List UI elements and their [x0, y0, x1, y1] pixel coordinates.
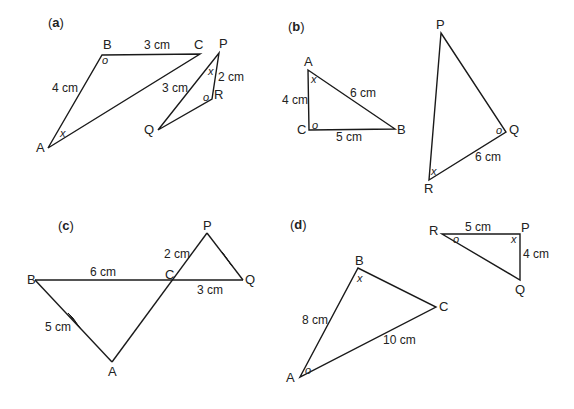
angle-b-mark: o: [102, 54, 108, 66]
angle-b-mark: x: [356, 272, 363, 284]
angle-a-mark: o: [305, 364, 311, 376]
length-bc: 3 cm: [144, 38, 170, 52]
point-q: Q: [144, 122, 154, 137]
angle-p-mark: x: [510, 233, 517, 245]
point-r: R: [424, 181, 433, 196]
length-rp: 5 cm: [465, 220, 491, 234]
point-q: Q: [245, 272, 255, 287]
part-label-a: (a): [48, 15, 64, 30]
point-c: C: [194, 37, 203, 52]
point-b: B: [27, 272, 36, 287]
point-q: Q: [515, 282, 525, 297]
angle-c-mark: o: [312, 119, 318, 131]
point-p: P: [521, 220, 530, 235]
point-c: C: [297, 122, 306, 137]
point-p: P: [436, 17, 445, 32]
length-cq: 3 cm: [197, 283, 223, 297]
line-ap: [112, 233, 207, 362]
point-b: B: [397, 122, 406, 137]
length-ac: 4 cm: [282, 93, 308, 107]
length-qr: 6 cm: [475, 150, 501, 164]
figure-d: (d) B C A R P Q 8 cm 10 cm 5 cm 4 cm x o…: [286, 217, 549, 385]
point-a: A: [108, 364, 117, 379]
length-cb: 5 cm: [336, 130, 362, 144]
angle-r-mark: o: [203, 91, 209, 103]
similar-triangles-diagram: (a) B C A P R Q 4 cm 3 cm 3 cm 2 cm o x …: [0, 0, 574, 409]
point-c: C: [439, 299, 448, 314]
triangle-abc-b: [308, 70, 395, 130]
point-p: P: [203, 218, 212, 233]
part-label-b: (b): [288, 19, 305, 34]
angle-q-mark: o: [496, 124, 502, 136]
angle-r-mark: o: [453, 233, 459, 245]
length-bc: 6 cm: [90, 265, 116, 279]
angle-p-mark: x: [207, 65, 214, 77]
point-p: P: [219, 36, 228, 51]
angle-r-mark: x: [430, 165, 437, 177]
length-pq: 3 cm: [162, 81, 188, 95]
point-b: B: [355, 253, 364, 268]
figure-b: (b) A C B P Q R 4 cm 6 cm 5 cm 6 cm x o …: [282, 17, 519, 196]
angle-a-mark: x: [310, 73, 317, 85]
triangle-abc-a: [48, 54, 200, 148]
length-ab: 8 cm: [302, 313, 328, 327]
parallel-arrow-pq: [222, 252, 232, 266]
length-pq: 4 cm: [523, 247, 549, 261]
part-label-c: (c): [58, 218, 74, 233]
point-a: A: [304, 54, 313, 69]
length-pr: 2 cm: [218, 70, 244, 84]
length-ac: 10 cm: [383, 333, 416, 347]
point-b: B: [103, 37, 112, 52]
figure-c: (c) B C Q P A 6 cm 3 cm 2 cm 5 cm: [27, 218, 255, 379]
length-ba: 5 cm: [45, 320, 71, 334]
figure-a: (a) B C A P R Q 4 cm 3 cm 3 cm 2 cm o x …: [36, 15, 244, 155]
length-pc: 2 cm: [164, 247, 190, 261]
point-a: A: [36, 140, 45, 155]
length-ab: 6 cm: [350, 86, 376, 100]
point-r: R: [429, 223, 438, 238]
point-r: R: [214, 87, 223, 102]
length-ab: 4 cm: [52, 81, 78, 95]
point-q: Q: [509, 122, 519, 137]
point-a: A: [286, 370, 295, 385]
point-c: C: [165, 267, 174, 282]
angle-a-mark: x: [59, 127, 66, 139]
part-label-d: (d): [290, 217, 307, 232]
